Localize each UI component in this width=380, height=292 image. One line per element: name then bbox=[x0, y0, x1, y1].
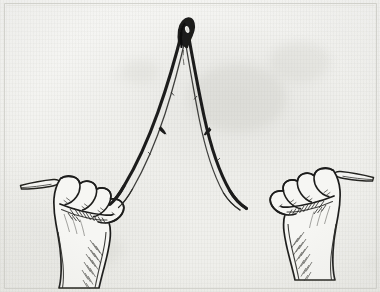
right-fist bbox=[270, 168, 373, 281]
rod-node-left bbox=[159, 126, 167, 135]
rod-stub-right bbox=[335, 171, 374, 181]
right-hand-outline bbox=[270, 168, 340, 280]
left-fist bbox=[21, 176, 124, 289]
left-hand-outline bbox=[54, 176, 124, 288]
rod-stub-left bbox=[21, 179, 60, 189]
rod-left-limb-outer bbox=[110, 30, 183, 205]
illustration-plate: Two clenched fists gripping the two ends… bbox=[0, 0, 380, 292]
dowsing-rod-illustration bbox=[0, 0, 380, 292]
rod-ends-over-fists bbox=[110, 186, 247, 210]
rod-left-limb-inner bbox=[119, 34, 187, 208]
